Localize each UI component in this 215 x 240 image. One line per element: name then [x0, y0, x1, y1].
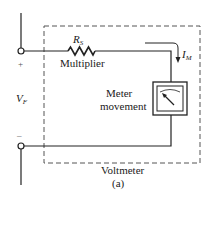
meter-label-line1: Meter [106, 87, 132, 99]
current-subscript: M [186, 54, 192, 62]
positive-sign: + [18, 58, 23, 70]
resistor-symbol: R [73, 33, 80, 45]
positive-terminal [18, 48, 24, 54]
voltage-subscript: F [23, 98, 27, 106]
current-arrowhead-icon [176, 57, 181, 63]
bottom-wire [24, 115, 171, 146]
resistor-subscript: S [80, 39, 84, 47]
multiplier-label: Multiplier [60, 57, 105, 69]
voltmeter-title: Voltmeter [101, 164, 144, 176]
figure-caption: (a) [112, 177, 124, 189]
negative-sign: – [17, 129, 22, 141]
resistor-meter-wire [95, 51, 171, 82]
meter-label-line2: movement [100, 100, 146, 112]
voltage-label: VF [16, 92, 27, 108]
resistor-symbol-label: RS [73, 33, 83, 49]
voltage-symbol: V [16, 92, 23, 104]
current-label: IM [182, 48, 192, 64]
negative-terminal [18, 143, 24, 149]
